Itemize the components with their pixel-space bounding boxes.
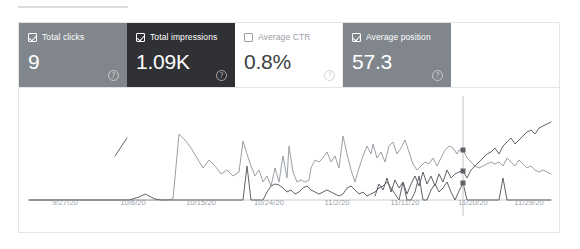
metric-value-total-clicks: 9 <box>28 49 117 74</box>
chart-series-line <box>29 166 551 200</box>
active-tab-indicator <box>18 6 128 8</box>
checkbox-average-ctr[interactable] <box>244 33 253 42</box>
metric-label-average-position: Average position <box>366 32 431 43</box>
hover-data-point-marker <box>461 148 466 153</box>
x-axis-tick-label: 9/27/20 <box>52 198 78 207</box>
metric-card-average-ctr[interactable]: Average CTR 0.8% ? <box>235 23 343 87</box>
metric-label-total-impressions: Total impressions <box>150 32 217 43</box>
hover-data-point-marker <box>461 181 466 186</box>
metric-value-total-impressions: 1.09K <box>136 49 225 74</box>
metric-card-header: Average position <box>352 31 441 44</box>
x-axis-tick-label: 10/24/20 <box>254 198 284 207</box>
x-axis-tick-label: 11/11/20 <box>391 198 420 207</box>
checkbox-total-clicks[interactable] <box>28 33 37 42</box>
hover-data-point-marker <box>461 169 466 174</box>
x-axis-tick-label: 11/29/20 <box>514 198 543 207</box>
metric-card-total-impressions[interactable]: Total impressions 1.09K ? <box>127 23 235 87</box>
metric-label-total-clicks: Total clicks <box>42 32 84 43</box>
metric-card-average-position[interactable]: Average position 57.3 ? <box>343 23 451 87</box>
metric-card-header: Total impressions <box>136 31 225 44</box>
metric-card-total-clicks[interactable]: Total clicks 9 ? <box>19 23 127 87</box>
metric-card-header: Average CTR <box>244 31 333 44</box>
x-axis-tick-label: 10/15/20 <box>186 198 216 207</box>
x-axis-tick-labels: 9/27/2010/6/2010/15/2010/24/2011/2/2011/… <box>19 198 561 214</box>
help-icon[interactable]: ? <box>216 70 227 81</box>
x-axis-tick-label: 10/6/20 <box>120 198 146 207</box>
help-icon[interactable]: ? <box>108 70 119 81</box>
checkbox-average-position[interactable] <box>352 33 361 42</box>
metric-label-average-ctr: Average CTR <box>258 32 310 43</box>
help-icon[interactable]: ? <box>324 70 335 81</box>
chart-series-line <box>115 138 127 156</box>
metric-card-header: Total clicks <box>28 31 117 44</box>
help-icon[interactable]: ? <box>432 70 443 81</box>
metric-value-average-ctr: 0.8% <box>244 49 333 74</box>
checkbox-total-impressions[interactable] <box>136 33 145 42</box>
metric-strip-filler <box>451 23 559 87</box>
performance-chart-panel: Total clicks 9 ? Total impressions 1.09K… <box>0 0 580 249</box>
x-axis-tick-label: 11/2/20 <box>324 198 349 207</box>
metric-value-average-position: 57.3 <box>352 49 441 74</box>
x-axis-tick-label: 11/20/20 <box>458 198 487 207</box>
metric-card-strip: Total clicks 9 ? Total impressions 1.09K… <box>18 22 560 88</box>
chart-area[interactable]: 9/27/2010/6/2010/15/2010/24/2011/2/2011/… <box>18 88 560 233</box>
